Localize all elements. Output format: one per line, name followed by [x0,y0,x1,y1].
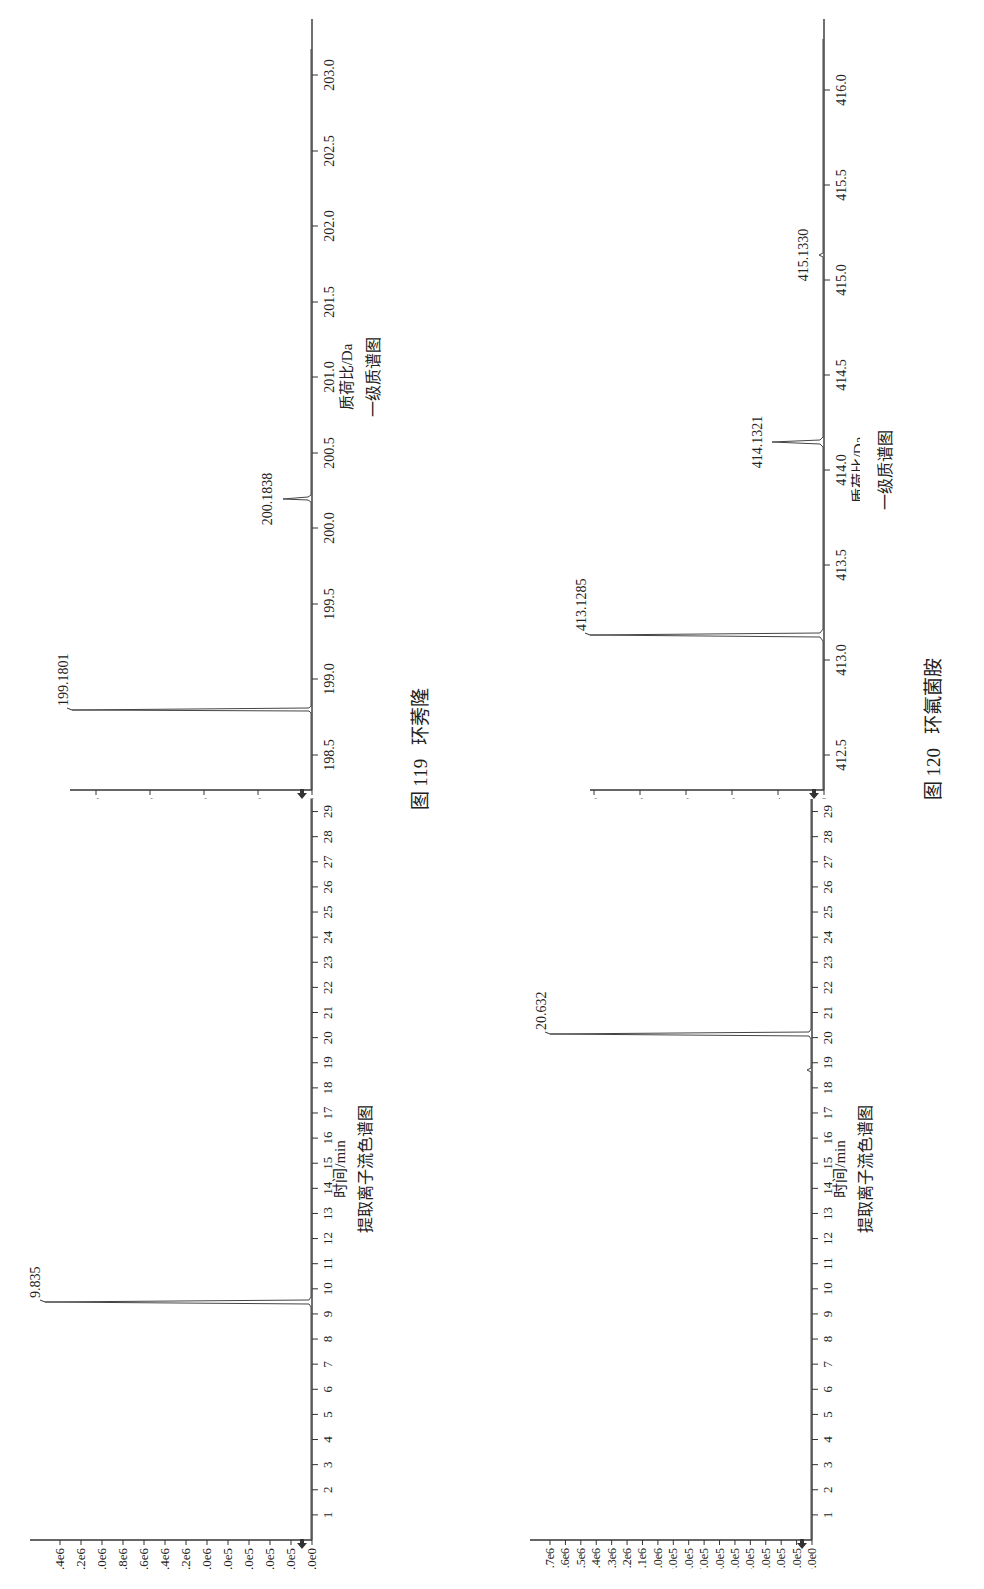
svg-text:1.2e6: 1.2e6 [178,1548,193,1569]
svg-text:1.3e6: 1.3e6 [605,1548,619,1569]
svg-text:5.0e5: 5.0e5 [728,1548,742,1569]
svg-text:2: 2 [320,1487,335,1494]
svg-text:7: 7 [320,1360,335,1367]
svg-text:12: 12 [820,1232,835,1245]
y-tick-labels: 0.0e05.0e41.0e51.5e52.0e52.5e5 [586,798,831,799]
svg-text:2.0e6: 2.0e6 [94,1548,109,1569]
svg-text:6: 6 [320,1386,335,1393]
y-tick-labels: 0.0e02.0e54.0e56.0e58.0e51.0e61.2e61.4e6… [52,1548,319,1569]
svg-text:10: 10 [820,1282,835,1295]
svg-text:4: 4 [320,1436,335,1443]
svg-text:18: 18 [320,1081,335,1094]
svg-text:3: 3 [820,1461,835,1468]
svg-text:198.5: 198.5 [322,739,337,771]
svg-text:1.0e5: 1.0e5 [790,1548,804,1569]
svg-text:2.5e5: 2.5e5 [586,798,601,799]
svg-text:23: 23 [820,956,835,969]
svg-text:5: 5 [320,1411,335,1418]
svg-text:6.0e5: 6.0e5 [241,1548,256,1569]
svg-text:2.4e6: 2.4e6 [52,1548,67,1569]
peak-label: 415.1330 [796,229,811,282]
chromatogram-trace [45,799,311,1539]
svg-text:19: 19 [820,1056,835,1069]
svg-text:413.0: 413.0 [834,644,849,676]
svg-text:0.0e0: 0.0e0 [805,1548,819,1569]
svg-text:4e5: 4e5 [88,798,103,799]
svg-text:22: 22 [820,981,835,994]
figure-120-caption: 图 120 环氟菌胺 [918,658,945,801]
svg-text:1.0e5: 1.0e5 [724,798,739,799]
peak-label: 414.1321 [750,416,765,469]
svg-text:10: 10 [320,1282,335,1295]
x-axis-label: 质荷比/Da [339,343,355,410]
svg-text:413.5: 413.5 [834,549,849,581]
svg-text:17: 17 [820,1106,835,1120]
svg-text:201.5: 201.5 [322,286,337,318]
figure-number: 图 120 [923,748,944,800]
svg-text:200.5: 200.5 [322,437,337,469]
svg-text:27: 27 [820,855,835,869]
svg-text:8: 8 [320,1336,335,1343]
rotated-book-page: 0.0e02.0e54.0e56.0e58.0e51.0e61.2e61.4e6… [0,0,984,1589]
y-tick-labels: 0.0e01.0e52.0e53.0e54.0e55.0e56.0e57.0e5… [543,1548,819,1569]
figure-119-chromatogram: 0.0e02.0e54.0e56.0e58.0e51.0e61.2e61.4e6… [0,789,360,1569]
figure-119-spectrum: 0e01e52e53e54e5 198.5199.0199.5200.0200.… [0,9,360,799]
svg-text:4.0e5: 4.0e5 [262,1548,277,1569]
x-axis-label: 质荷比/Da [851,436,860,503]
svg-text:25: 25 [320,906,335,919]
svg-text:1.0e6: 1.0e6 [199,1548,214,1569]
spectrum-subtitle: 一级质谱图 [360,337,384,417]
svg-text:202.5: 202.5 [322,135,337,167]
svg-text:9: 9 [320,1311,335,1318]
svg-text:1.4e6: 1.4e6 [157,1548,172,1569]
svg-text:203.0: 203.0 [322,59,337,91]
spectrum-trace [590,39,823,789]
svg-text:8.0e5: 8.0e5 [220,1548,235,1569]
svg-text:21: 21 [820,1006,835,1019]
y-tick-labels: 0e01e52e53e54e5 [88,798,319,799]
svg-text:0.0e0: 0.0e0 [304,1548,319,1569]
svg-text:1.6e6: 1.6e6 [558,1548,572,1569]
svg-text:9.0e5: 9.0e5 [666,1548,680,1569]
peak-label: 20.632 [534,992,549,1031]
svg-text:5: 5 [820,1411,835,1418]
svg-text:25: 25 [820,906,835,919]
spectrum-trace [72,49,311,789]
svg-text:23: 23 [320,956,335,969]
svg-text:2: 2 [820,1487,835,1494]
svg-text:7.0e5: 7.0e5 [697,1548,711,1569]
svg-text:18: 18 [820,1081,835,1094]
svg-text:11: 11 [320,1257,335,1270]
svg-text:1e5: 1e5 [250,798,265,799]
x-tick-labels: 412.5413.0413.5414.0414.5415.0415.5416.0 [834,74,849,771]
svg-text:415.0: 415.0 [834,264,849,296]
svg-text:2.2e6: 2.2e6 [73,1548,88,1569]
svg-text:1.5e5: 1.5e5 [678,798,693,799]
svg-text:20: 20 [820,1031,835,1044]
svg-text:3.0e5: 3.0e5 [759,1548,773,1569]
svg-text:1.7e6: 1.7e6 [543,1548,557,1569]
svg-text:3: 3 [320,1461,335,1468]
svg-text:27: 27 [320,855,335,869]
svg-text:24: 24 [820,930,835,944]
chromatogram-trace [550,799,811,1539]
svg-text:21: 21 [320,1006,335,1019]
svg-text:1: 1 [820,1512,835,1519]
svg-text:9: 9 [820,1311,835,1318]
svg-text:1.2e6: 1.2e6 [620,1548,634,1569]
svg-text:414.5: 414.5 [834,359,849,391]
svg-text:8: 8 [820,1336,835,1343]
compound-name: 环莠隆 [410,688,431,745]
svg-text:4.0e5: 4.0e5 [743,1548,757,1569]
svg-text:5.0e4: 5.0e4 [770,798,785,799]
svg-text:1.4e6: 1.4e6 [589,1548,603,1569]
svg-text:26: 26 [320,880,335,894]
peak-label: 200.1838 [260,473,275,526]
svg-text:415.5: 415.5 [834,169,849,201]
svg-text:1.0e6: 1.0e6 [651,1548,665,1569]
svg-text:0e0: 0e0 [304,798,319,799]
compound-name: 环氟菌胺 [923,658,944,734]
svg-text:1.1e6: 1.1e6 [635,1548,649,1569]
svg-text:1.6e6: 1.6e6 [136,1548,151,1569]
svg-text:412.5: 412.5 [834,739,849,771]
